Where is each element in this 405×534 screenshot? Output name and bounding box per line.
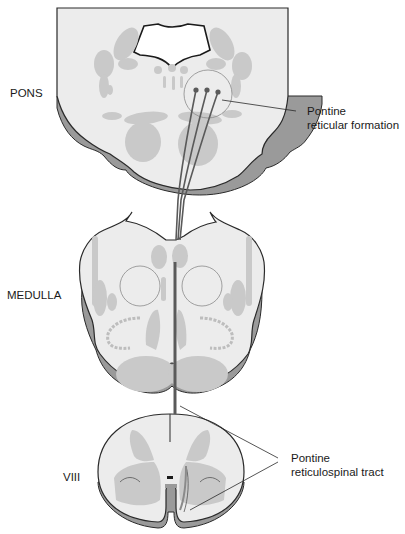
diagram-canvas: PONS MEDULLA VIII Pontine reticular form… [0,0,405,534]
callout-line: reticular formation [307,118,399,132]
callout-pontine-reticulospinal-tract: Pontine reticulospinal tract [291,451,384,479]
callout-line: Pontine [307,104,399,118]
callout-line: reticulospinal tract [291,465,384,479]
pons-section [57,8,322,195]
label-pons: PONS [10,86,43,100]
medulla-section [80,212,265,393]
callout-line: Pontine [291,451,384,465]
label-medulla: MEDULLA [7,288,61,302]
label-spinal-segment: VIII [63,470,80,484]
spinal-cord-section [98,414,244,528]
callout-pontine-reticular-formation: Pontine reticular formation [307,104,399,132]
